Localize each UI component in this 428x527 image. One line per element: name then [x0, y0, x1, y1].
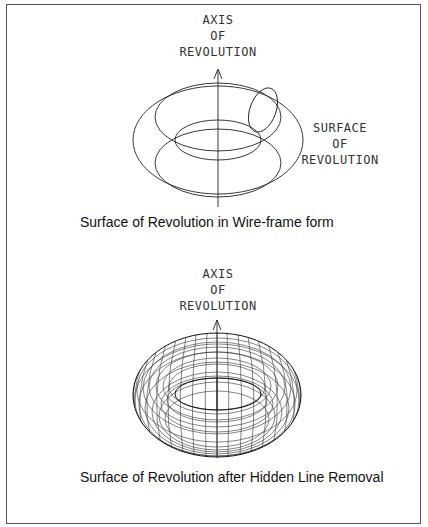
diagram-svg [0, 0, 428, 527]
cross-section-circle [243, 84, 283, 136]
hidden-line-torus [133, 320, 301, 458]
wireframe-torus [133, 69, 303, 207]
